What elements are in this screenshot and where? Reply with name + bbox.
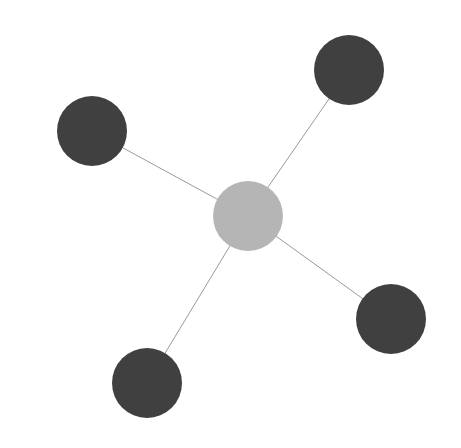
- node-top-left: [57, 96, 127, 166]
- node-top-right: [314, 35, 384, 105]
- node-bottom-right: [356, 284, 426, 354]
- star-graph-diagram: [0, 0, 461, 448]
- node-center: [213, 181, 283, 251]
- nodes-layer: [57, 35, 426, 418]
- node-bottom-left: [112, 348, 182, 418]
